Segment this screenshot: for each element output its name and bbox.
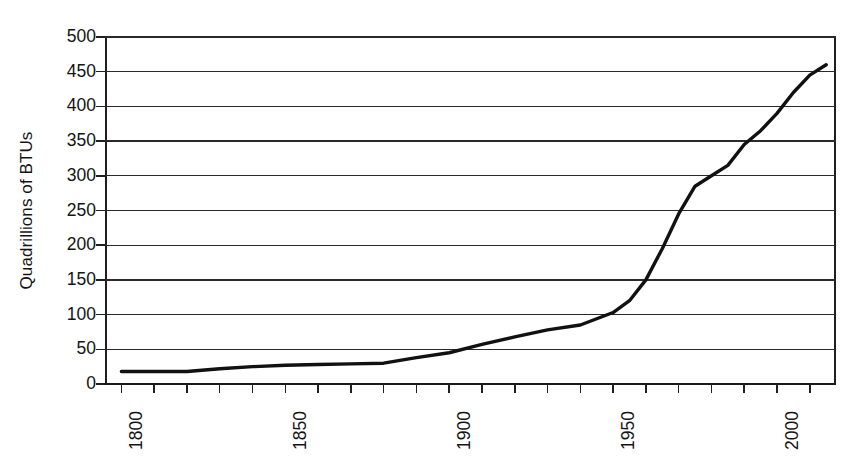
y-tick-mark: [96, 279, 105, 281]
y-tick-label: 300: [50, 167, 96, 185]
y-tick-label: 500: [50, 28, 96, 46]
y-tick-mark: [96, 36, 105, 38]
plot-area: [105, 37, 836, 384]
y-tick-mark: [96, 71, 105, 73]
y-axis-title: Quadrillions of BTUs: [14, 37, 40, 384]
x-tick-label: 1850: [292, 411, 310, 450]
energy-consumption-line-chart: Quadrillions of BTUs 0501001502002503003…: [0, 0, 860, 464]
y-tick-mark: [96, 244, 105, 246]
y-tick-mark: [96, 314, 105, 316]
x-tick-label: 1800: [128, 411, 146, 450]
y-tick-label: 450: [50, 63, 96, 81]
x-axis-tick-labels: 18001850190019502000: [105, 384, 836, 464]
data-series-svg: [105, 37, 836, 384]
y-tick-label: 250: [50, 202, 96, 220]
energy-consumption-line: [121, 65, 826, 372]
y-tick-mark: [96, 210, 105, 212]
y-tick-mark: [96, 140, 105, 142]
x-tick-label: 1900: [456, 411, 474, 450]
x-tick-label: 1950: [620, 411, 638, 450]
y-tick-label: 350: [50, 132, 96, 150]
y-axis-tick-labels: 050100150200250300350400450500: [44, 0, 96, 464]
y-tick-label: 400: [50, 97, 96, 115]
y-tick-mark: [96, 175, 105, 177]
y-tick-mark: [96, 383, 105, 385]
y-tick-label: 50: [50, 340, 96, 358]
y-tick-mark: [96, 106, 105, 108]
x-tick-label: 2000: [784, 411, 802, 450]
y-tick-mark: [96, 349, 105, 351]
y-tick-label: 200: [50, 236, 96, 254]
y-tick-label: 0: [50, 375, 96, 393]
y-tick-label: 150: [50, 271, 96, 289]
y-tick-label: 100: [50, 306, 96, 324]
